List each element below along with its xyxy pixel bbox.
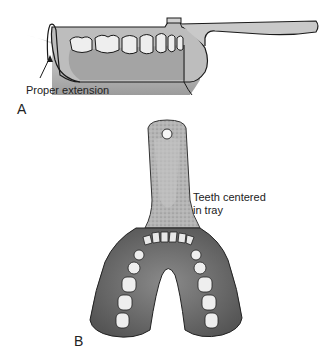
arrow-icon — [40, 55, 53, 78]
annotation-teeth-centered-line2: in tray — [193, 204, 223, 217]
handle-stop — [167, 18, 181, 23]
panel-b-occlusal-view — [90, 120, 242, 337]
annotation-proper-extension: Proper extension — [26, 84, 109, 97]
panel-label-b: B — [74, 333, 83, 349]
handle-hole — [162, 129, 172, 139]
annotation-teeth-centered-line1: Teeth centered — [193, 191, 266, 204]
panel-label-a: A — [17, 101, 26, 117]
tray-u-shape — [90, 228, 242, 337]
diagram-canvas — [0, 0, 336, 355]
teeth-row — [70, 34, 183, 54]
